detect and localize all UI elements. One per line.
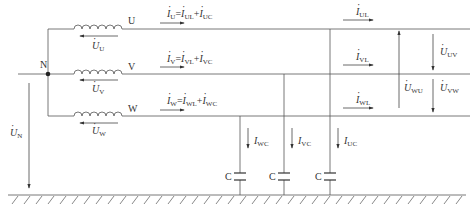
voltage-label-w: UW: [92, 126, 106, 138]
line-voltage-vw: UVW: [440, 83, 459, 95]
capacitor-label-u: C: [315, 172, 322, 182]
circuit-diagram: [0, 0, 472, 211]
load-current-v: IVL: [356, 52, 369, 64]
neutral-label: N: [40, 60, 47, 70]
cap-current-u: IUC: [344, 136, 357, 148]
ground-hatch: [12, 196, 462, 204]
load-current-u: IUL: [356, 7, 369, 19]
coil-w: [74, 112, 122, 116]
cap-current-v: IVC: [298, 136, 311, 148]
neutral-node: [46, 72, 51, 77]
current-equation-v: IV=IVL+IVC: [167, 54, 212, 66]
voltage-label-v: UV: [92, 84, 104, 96]
line-voltage-uv: UUV: [440, 47, 457, 59]
phase-label-u: U: [128, 16, 135, 26]
current-equation-w: IW=IWL+IWC: [167, 96, 217, 108]
coil-u: [74, 25, 122, 29]
phase-label-v: V: [128, 62, 135, 72]
voltage-label-u: UU: [92, 41, 104, 53]
cap-current-w: IWC: [254, 136, 269, 148]
load-current-w: IWL: [356, 95, 370, 107]
line-voltage-wu: UWU: [404, 83, 423, 95]
neutral-voltage: UN: [10, 128, 22, 140]
phase-label-w: W: [128, 104, 137, 114]
capacitor-label-v: C: [269, 172, 276, 182]
current-equation-u: IU=IUL+IUC: [167, 9, 212, 21]
coil-v: [74, 70, 122, 74]
capacitor-label-w: C: [225, 172, 232, 182]
